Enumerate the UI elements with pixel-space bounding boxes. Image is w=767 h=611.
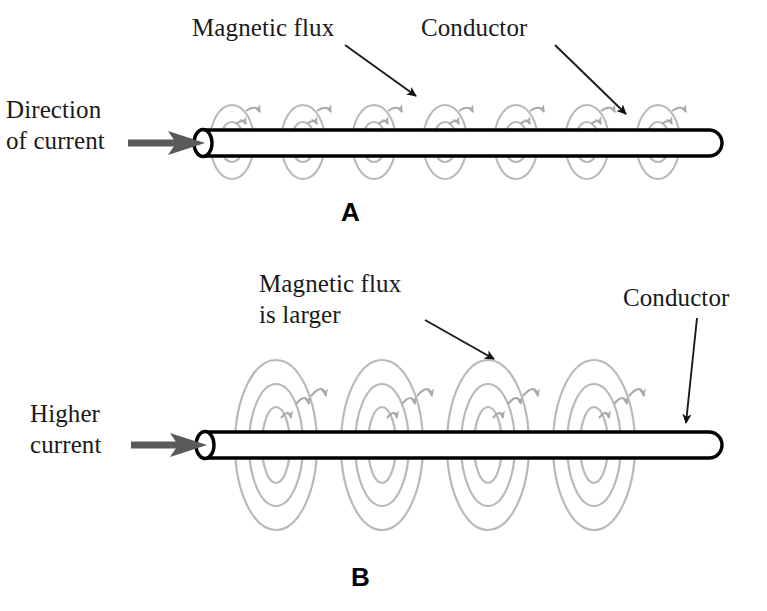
conductor-leader-b [686,318,697,423]
magnetic-flux-leader-b [425,320,494,359]
panel-letter-a: A [341,197,360,228]
conductor-label-a: Conductor [421,12,527,43]
conductor-label-b: Conductor [623,282,729,313]
panel-a-conductor [194,130,722,157]
direction-of-current-line1: Direction [6,96,101,123]
magnetic-flux-label-a: Magnetic flux [192,12,334,43]
panel-b-conductor [196,432,722,459]
magnetic-flux-label-b: Magnetic fluxis larger [259,268,401,330]
higher-current-line1: Higher [30,400,100,427]
higher-current-label: Highercurrent [30,398,102,460]
magnetic-flux-leader-a [345,45,416,96]
direction-of-current-line2: of current [6,127,105,154]
magnetic-flux-figure: Magnetic flux Conductor Directionof curr… [0,0,767,611]
panel-a-current-arrow [128,131,205,155]
magnetic-flux-label-b-line1: Magnetic flux [259,270,401,297]
higher-current-line2: current [30,431,102,458]
panel-b-current-arrow [131,433,207,457]
direction-of-current-label: Directionof current [6,94,105,156]
magnetic-flux-label-b-line2: is larger [259,301,341,328]
conductor-leader-a [555,45,626,114]
panel-letter-b: B [351,562,370,593]
